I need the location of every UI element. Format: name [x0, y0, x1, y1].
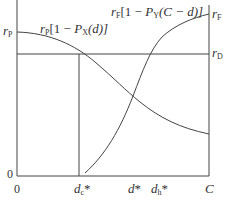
rP-axis-label: rP	[3, 23, 13, 39]
rD-axis-label: rD	[212, 45, 223, 61]
decreasing-curve	[17, 32, 209, 134]
rF-axis-label: rF	[212, 6, 222, 22]
increasing-curve-label: rF[1 − PY(C − d)]	[111, 4, 203, 20]
diagram-canvas: rP[1 − PX(d)] rF[1 − PY(C − d)] rP 0 rF …	[0, 0, 228, 201]
x-zero-label: 0	[14, 182, 20, 196]
d-star-label: d*	[128, 181, 141, 196]
decreasing-curve-label: rP[1 − PX(d)]	[40, 21, 108, 37]
C-label: C	[205, 181, 214, 196]
dh-star-label: dh*	[151, 181, 168, 197]
dc-star-label: dc*	[74, 181, 91, 197]
increasing-curve	[85, 14, 209, 173]
y-zero-label: 0	[7, 167, 13, 181]
